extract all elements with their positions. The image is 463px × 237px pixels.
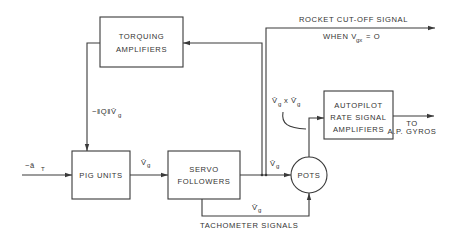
pig-out-sub: g: [147, 162, 150, 168]
torquing-amplifiers-block: TORQUING AMPLIFIERS: [100, 17, 183, 67]
pots-node: POTS: [291, 157, 327, 193]
autopilot-label-1: AUTOPILOT: [334, 101, 382, 110]
cutoff-when: WHEN V: [323, 32, 357, 41]
servo-followers-block: SERVO FOLLOWERS: [168, 151, 240, 199]
torquing-label-1: TORQUING: [119, 32, 165, 41]
cutoff-label: ROCKET CUT-OFF SIGNAL: [299, 15, 408, 24]
cutoff-eq: = O: [366, 32, 380, 41]
tach-sub: g: [258, 207, 261, 213]
pig-to-servo: V̄ g: [130, 158, 168, 175]
input-label: −ā: [25, 161, 35, 170]
autopilot-label-3: AMPLIFIERS: [333, 125, 384, 134]
pig-units-label: PIG UNITS: [79, 171, 122, 180]
autopilot-label-2: RATE SIGNAL: [330, 113, 386, 122]
block-diagram: TORQUING AMPLIFIERS PIG UNITS SERVO FOLL…: [0, 0, 463, 237]
cross-sub-1: g: [278, 101, 281, 107]
pig-units-block: PIG UNITS: [72, 151, 130, 199]
cross-x: x: [284, 96, 288, 105]
tachometer-signals-label: TACHOMETER SIGNALS: [200, 221, 298, 230]
input-sub: T: [41, 166, 45, 172]
feedback-sub: g: [118, 112, 121, 118]
pots-to-autopilot: V̄ g x V̄̇ g: [272, 96, 324, 157]
cross-sub-2: g: [297, 101, 300, 107]
autopilot-amplifiers-block: AUTOPILOT RATE SIGNAL AMPLIFIERS: [324, 91, 393, 139]
servo-label-2: FOLLOWERS: [177, 177, 230, 186]
autopilot-output: TO A.P. GYROS: [388, 116, 437, 136]
torquing-label-2: AMPLIFIERS: [116, 45, 167, 54]
cutoff-sub: gx: [356, 37, 362, 43]
servo-label-1: SERVO: [189, 165, 218, 174]
feedback-label: −‖Q‖V̄: [92, 107, 117, 116]
ap-gyros-label: A.P. GYROS: [388, 127, 437, 136]
input-signal: −ā T: [22, 161, 72, 175]
servo-out-sub: g: [276, 163, 279, 169]
pots-label: POTS: [297, 171, 320, 180]
